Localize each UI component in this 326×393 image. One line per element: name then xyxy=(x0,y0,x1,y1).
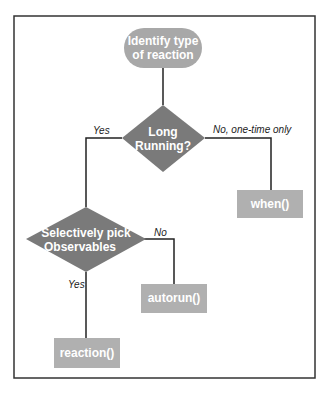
action-reaction-label: reaction() xyxy=(60,346,115,360)
edge-label-d2-no: No xyxy=(154,227,167,238)
edge-label-d1-no: No, one-time only xyxy=(213,124,292,135)
edge-label-d2-yes: Yes xyxy=(68,279,85,290)
start-node-line1: Identify type xyxy=(128,34,199,48)
start-node-line2: of reaction xyxy=(132,48,193,62)
action-reaction: reaction() xyxy=(54,338,120,368)
edge-d1-yes xyxy=(86,138,122,207)
decision-selectively-pick-line1: Selectively pick xyxy=(41,226,131,240)
edge-d2-no xyxy=(127,239,174,284)
action-when: when() xyxy=(237,190,303,218)
decision-long-running-line2: Running? xyxy=(135,139,191,153)
decision-selectively-pick: Selectively pick Observables xyxy=(26,207,146,272)
flowchart: Identify type of reaction Long Running? … xyxy=(0,0,326,393)
decision-selectively-pick-line2: Observables xyxy=(44,240,116,254)
start-node: Identify type of reaction xyxy=(124,28,202,68)
edge-label-d1-yes: Yes xyxy=(93,125,110,136)
decision-long-running-line1: Long xyxy=(148,125,177,139)
action-autorun-label: autorun() xyxy=(148,291,201,305)
action-when-label: when() xyxy=(250,197,290,211)
decision-long-running: Long Running? xyxy=(122,105,205,172)
action-autorun: autorun() xyxy=(141,284,207,313)
edge-d1-no xyxy=(205,138,271,190)
